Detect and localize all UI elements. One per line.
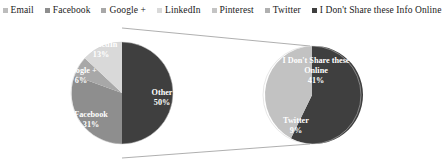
- legend-swatch-twitter: [265, 8, 270, 13]
- primary-label-linkedin-value: 13%: [93, 50, 109, 59]
- legend-swatch-pinterest: [212, 8, 217, 13]
- primary-label-facebook-value: 31%: [83, 120, 99, 129]
- legend-label-pinterest: Pinterest: [220, 5, 254, 16]
- legend-swatch-google-plus: [101, 8, 106, 13]
- legend-label-email: Email: [11, 5, 34, 16]
- legend-label-twitter: Twitter: [273, 5, 301, 16]
- primary-label-other-name: Other: [152, 88, 173, 97]
- legend-label-linkedin: LinkedIn: [165, 5, 201, 16]
- secondary-label-dont-share-value: 41%: [308, 76, 324, 85]
- legend-item-twitter[interactable]: Twitter: [265, 5, 301, 16]
- primary-label-google-plus-name: Google +: [65, 66, 97, 75]
- chart-legend: Email Facebook Google + LinkedIn Pintere…: [0, 2, 444, 18]
- primary-label-google-plus-value: 6%: [75, 76, 87, 85]
- legend-swatch-dont-share: [312, 8, 317, 13]
- secondary-label-twitter-value: 9%: [290, 126, 302, 135]
- primary-label-facebook-name: Facebook: [74, 110, 108, 119]
- legend-item-email[interactable]: Email: [3, 5, 34, 16]
- legend-item-linkedin[interactable]: LinkedIn: [157, 5, 201, 16]
- legend-item-google-plus[interactable]: Google +: [101, 5, 146, 16]
- legend-label-dont-share: I Don't Share these Info Online: [320, 5, 442, 16]
- legend-swatch-facebook: [45, 8, 50, 13]
- legend-swatch-email: [3, 8, 8, 13]
- legend-item-pinterest[interactable]: Pinterest: [212, 5, 254, 16]
- legend-label-facebook: Facebook: [53, 5, 91, 16]
- secondary-label-dont-share-line1: I Don't Share these: [283, 56, 350, 65]
- primary-label-other-value: 50%: [154, 98, 170, 107]
- secondary-label-dont-share-line2: Online: [304, 66, 328, 75]
- chart-plot-area: Other 50% Facebook 31% Google + 6% Linke…: [0, 20, 444, 166]
- secondary-label-twitter-name: Twitter: [283, 116, 309, 125]
- primary-label-linkedin-name: LinkedIn: [85, 40, 118, 49]
- legend-label-google-plus: Google +: [109, 5, 146, 16]
- pie-of-pie-chart: Email Facebook Google + LinkedIn Pintere…: [0, 0, 444, 166]
- legend-item-dont-share[interactable]: I Don't Share these Info Online: [312, 5, 442, 16]
- legend-swatch-linkedin: [157, 8, 162, 13]
- legend-item-facebook[interactable]: Facebook: [45, 5, 91, 16]
